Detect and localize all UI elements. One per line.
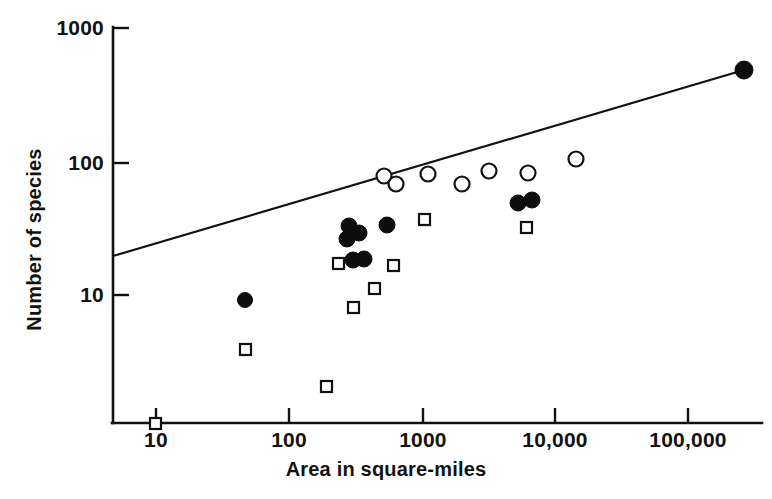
y-tick-label-10: 10 <box>0 283 104 307</box>
data-point-square <box>240 344 251 355</box>
x-tick-label-100: 100 <box>271 428 307 452</box>
y-tick-label-1000: 1000 <box>0 16 104 40</box>
data-point-open-circle <box>389 177 404 192</box>
data-point-filled-circle <box>238 293 253 308</box>
x-tick-label-100000: 100,000 <box>649 428 726 452</box>
data-point-square <box>419 214 430 225</box>
data-point-square <box>348 302 359 313</box>
x-tick-label-10000: 10,000 <box>522 428 587 452</box>
data-point-square <box>388 260 399 271</box>
data-point-open-circle <box>569 152 584 167</box>
data-point-square <box>521 222 532 233</box>
data-point-square <box>369 283 380 294</box>
chart-canvas <box>0 0 772 499</box>
x-tick-group <box>156 408 688 423</box>
x-tick-label-1000: 1000 <box>399 428 447 452</box>
data-point-filled-circle <box>379 217 395 233</box>
trend-line <box>113 70 744 256</box>
open-circle-series <box>377 152 584 192</box>
species-area-chart: 1000 100 10 10 100 1000 10,000 100,000 A… <box>0 0 772 499</box>
data-point-open-circle <box>421 167 436 182</box>
data-point-open-circle <box>482 164 497 179</box>
y-tick-label-100: 100 <box>0 151 104 175</box>
data-point-square <box>321 381 332 392</box>
data-point-square <box>333 258 344 269</box>
open-square-series <box>150 214 532 429</box>
data-point-filled-circle <box>356 251 372 267</box>
data-point-filled-circle <box>510 195 526 211</box>
filled-circle-series <box>238 61 754 308</box>
data-point-filled-circle <box>351 225 367 241</box>
axis-group <box>112 27 762 423</box>
data-point-open-circle <box>521 166 536 181</box>
x-axis-title: Area in square-miles <box>0 458 772 481</box>
x-tick-label-10: 10 <box>144 428 168 452</box>
y-axis-title: Number of species <box>23 110 46 370</box>
data-point-filled-circle <box>524 192 540 208</box>
data-point-filled-circle <box>735 61 753 79</box>
data-point-open-circle <box>455 177 470 192</box>
